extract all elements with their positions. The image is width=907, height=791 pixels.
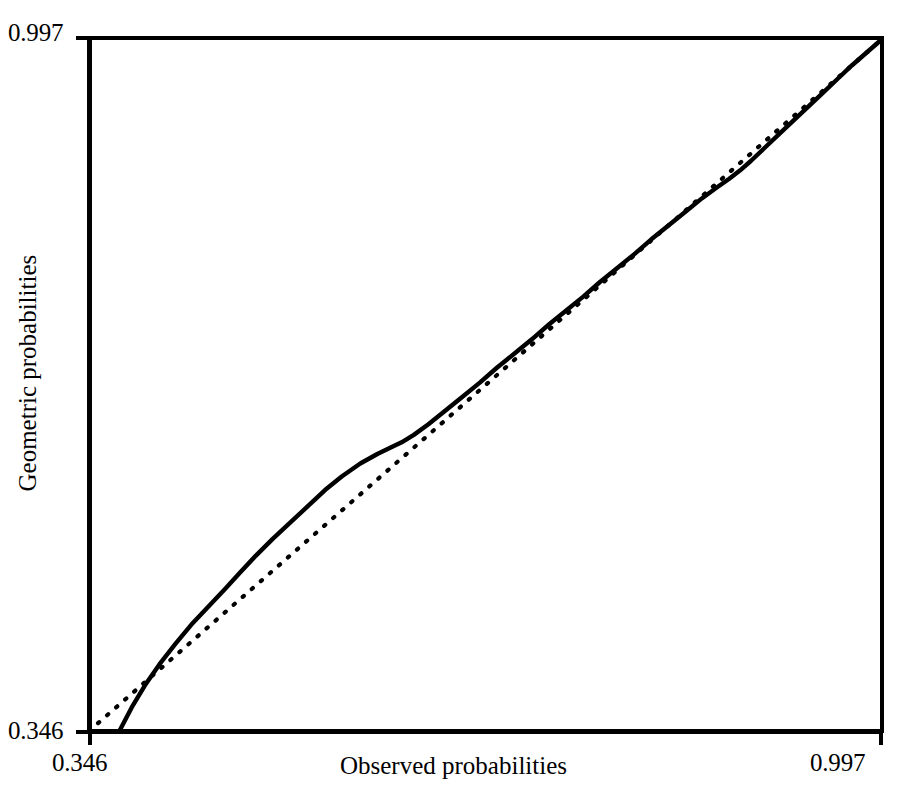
data-series-group — [89, 40, 881, 731]
reference-line-series — [89, 40, 881, 731]
y-axis-min-tick-label: 0.346 — [8, 718, 63, 743]
y-axis-max-tick-label: 0.997 — [8, 20, 63, 45]
plot-canvas — [0, 0, 907, 791]
pp-curve-series — [119, 40, 881, 731]
pp-plot-figure: 0.997 0.346 0.346 0.997 Observed probabi… — [0, 0, 907, 791]
x-axis-title: Observed probabilities — [0, 752, 907, 779]
y-axis-title: Geometric probabilities — [14, 292, 41, 492]
